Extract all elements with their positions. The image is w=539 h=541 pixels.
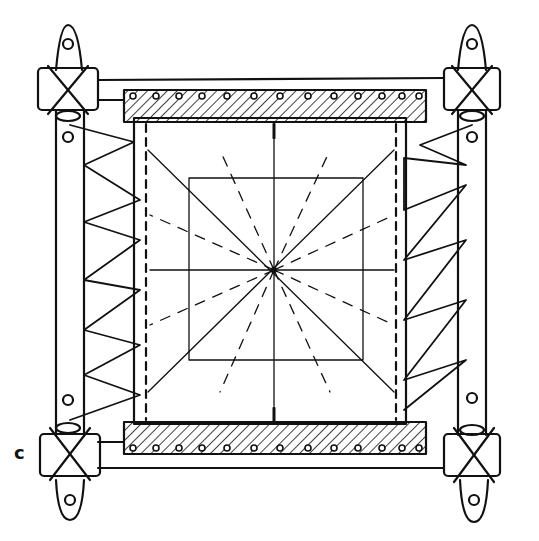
fabric — [134, 118, 406, 424]
right-rail — [458, 110, 486, 435]
frame-drawing — [0, 0, 539, 541]
guide-lines — [148, 140, 394, 406]
corner-br — [444, 393, 500, 522]
figure-label: c — [14, 442, 25, 463]
corner-tl — [38, 25, 98, 142]
right-lacing — [404, 125, 472, 410]
corner-bl — [40, 395, 100, 520]
left-rail — [56, 110, 84, 435]
left-lacing — [70, 125, 140, 420]
diagram: c — [0, 0, 539, 541]
